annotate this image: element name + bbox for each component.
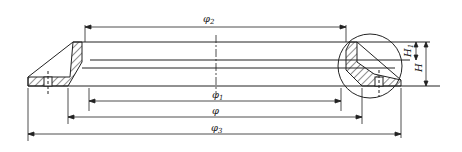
- gasket-drawing: φ2 φ1 φ φ3 H1 H: [0, 0, 462, 152]
- label-H: H: [413, 63, 424, 73]
- label-phi: φ: [212, 105, 219, 116]
- left-section: [28, 42, 82, 95]
- right-section: [338, 34, 402, 98]
- label-phi1: φ1: [212, 89, 223, 102]
- label-phi2: φ2: [203, 13, 215, 26]
- label-H1: H1: [402, 44, 415, 58]
- label-phi3: φ3: [211, 122, 223, 135]
